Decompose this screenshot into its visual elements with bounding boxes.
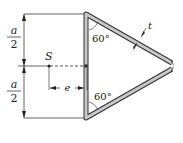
svg-text:t: t: [148, 20, 153, 31]
svg-text:e: e: [65, 82, 71, 93]
svg-text:a: a: [11, 24, 18, 37]
svg-text:2: 2: [11, 38, 18, 51]
half-height-top-label: a 2: [7, 24, 21, 51]
svg-text:2: 2: [11, 92, 18, 105]
triangle-wall: [86, 14, 172, 118]
angle-top-label: 60°: [92, 33, 110, 44]
eccentricity-dimension: e: [49, 67, 84, 93]
angle-bottom-label: 60°: [94, 91, 112, 102]
triangular-section-diagram: a 2 a 2 S e 60° 60°: [0, 0, 183, 143]
svg-text:a: a: [11, 78, 18, 91]
wall-midpoint-mark: [85, 65, 88, 68]
shear-center-label: S: [45, 50, 53, 63]
half-height-bottom-label: a 2: [7, 78, 21, 105]
